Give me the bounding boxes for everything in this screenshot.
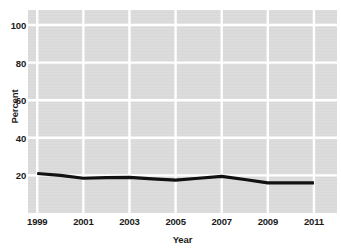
- x-tick-label-1999: 1999: [14, 216, 60, 227]
- x-tick-label-2009: 2009: [245, 216, 291, 227]
- x-tick-label-2007: 2007: [199, 216, 245, 227]
- x-axis-tick-labels: 1999200120032005200720092011: [0, 0, 341, 252]
- x-axis-title: Year: [28, 234, 337, 245]
- x-tick-label-2011: 2011: [291, 216, 337, 227]
- x-tick-label-2003: 2003: [106, 216, 152, 227]
- x-tick-label-2005: 2005: [153, 216, 199, 227]
- chart-figure: 20406080100 1999200120032005200720092011…: [0, 0, 341, 252]
- x-tick-label-2001: 2001: [60, 216, 106, 227]
- y-axis-title: Percent: [9, 77, 20, 137]
